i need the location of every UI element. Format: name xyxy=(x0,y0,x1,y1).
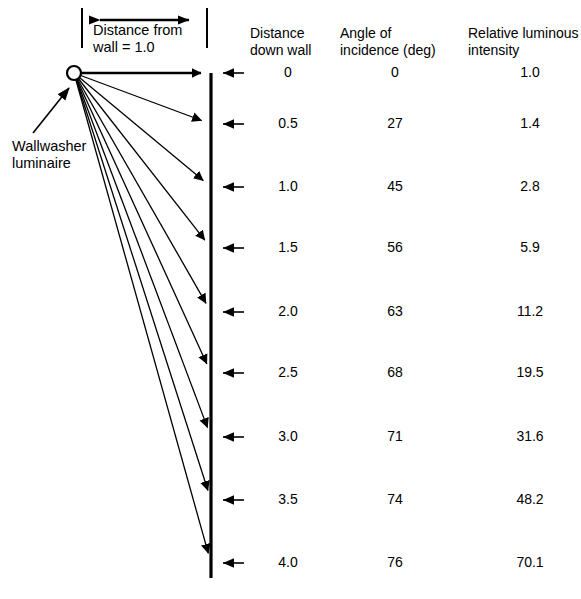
cell-distance: 3.0 xyxy=(248,428,328,445)
cell-angle: 76 xyxy=(355,554,435,571)
cell-angle: 45 xyxy=(355,178,435,195)
cell-distance: 1.5 xyxy=(248,239,328,256)
light-ray xyxy=(74,73,203,181)
column-header-distance: Distance down wall xyxy=(250,25,311,59)
cell-angle: 0 xyxy=(355,64,435,81)
cell-angle: 68 xyxy=(355,364,435,381)
cell-angle: 56 xyxy=(355,239,435,256)
cell-intensity: 11.2 xyxy=(490,303,570,320)
cell-angle: 27 xyxy=(355,115,435,132)
cell-angle: 63 xyxy=(355,303,435,320)
luminaire-source-icon xyxy=(67,66,81,80)
cell-intensity: 19.5 xyxy=(490,364,570,381)
cell-intensity: 2.8 xyxy=(490,178,570,195)
wall-indicator-arrow-group xyxy=(223,73,244,563)
cell-distance: 0.5 xyxy=(248,115,328,132)
light-ray xyxy=(74,73,207,364)
cell-intensity: 70.1 xyxy=(490,554,570,571)
diagram-canvas xyxy=(0,0,581,599)
cell-distance: 4.0 xyxy=(248,554,328,571)
cell-angle: 71 xyxy=(355,428,435,445)
luminaire-label: Wallwasher luminaire xyxy=(12,138,86,172)
cell-distance: 1.0 xyxy=(248,178,328,195)
light-ray xyxy=(74,73,208,553)
luminaire-callout-arrow xyxy=(33,88,69,133)
wallwasher-diagram-page: Distance from wall = 1.0 Wallwasher lumi… xyxy=(0,0,581,599)
cell-intensity: 31.6 xyxy=(490,428,570,445)
light-ray xyxy=(74,73,206,303)
light-ray xyxy=(74,73,207,428)
cell-distance: 0 xyxy=(248,64,328,81)
cell-distance: 3.5 xyxy=(248,491,328,508)
cell-intensity: 48.2 xyxy=(490,491,570,508)
cell-intensity: 1.4 xyxy=(490,115,570,132)
light-ray-group xyxy=(74,73,208,553)
dimension-label: Distance from wall = 1.0 xyxy=(93,22,182,56)
cell-intensity: 5.9 xyxy=(490,239,570,256)
cell-distance: 2.5 xyxy=(248,364,328,381)
cell-distance: 2.0 xyxy=(248,303,328,320)
column-header-intensity: Relative luminous intensity xyxy=(468,25,579,59)
cell-angle: 74 xyxy=(355,491,435,508)
light-ray xyxy=(74,73,208,490)
column-header-angle: Angle of incidence (deg) xyxy=(340,25,436,59)
cell-intensity: 1.0 xyxy=(490,64,570,81)
